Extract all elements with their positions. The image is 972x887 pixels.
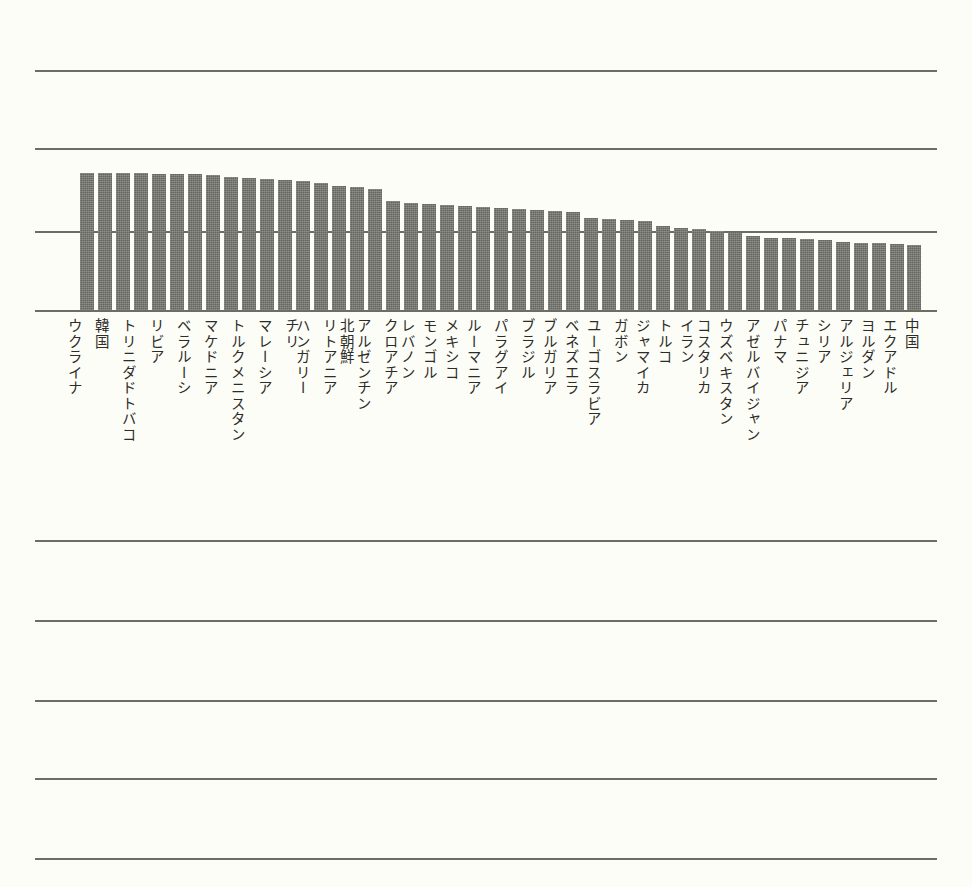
- x-axis-tick-label: ベネズエラ: [563, 318, 578, 396]
- x-axis-tick-label: リビア: [148, 318, 163, 365]
- bar[interactable]: [620, 220, 634, 310]
- x-axis-tick-label: ルーマニア: [465, 318, 480, 396]
- bar[interactable]: [188, 174, 202, 310]
- bar[interactable]: [656, 226, 670, 310]
- bar[interactable]: [80, 173, 94, 310]
- x-axis-tick-label: 中国: [903, 318, 918, 349]
- bar[interactable]: [458, 206, 472, 310]
- bar[interactable]: [404, 203, 418, 310]
- bar[interactable]: [530, 210, 544, 310]
- x-axis-tick-label: アルゼンチン: [355, 318, 370, 411]
- x-axis-tick-label: ウズベキスタン: [717, 318, 732, 427]
- bar[interactable]: [566, 212, 580, 310]
- x-axis-tick-label: ブルガリア: [541, 318, 556, 396]
- x-axis-tick-label: ハンガリー: [294, 318, 309, 396]
- x-axis-tick-label: エクアドル: [881, 318, 896, 396]
- bar[interactable]: [206, 175, 220, 310]
- bar[interactable]: [440, 205, 454, 310]
- x-axis-tick-label: マケドニア: [202, 318, 217, 396]
- bar[interactable]: [386, 201, 400, 310]
- bar[interactable]: [872, 243, 886, 310]
- bar[interactable]: [728, 232, 742, 310]
- bar[interactable]: [638, 221, 652, 310]
- bar[interactable]: [818, 240, 832, 310]
- x-axis-tick-label: トリニダドトバコ: [120, 318, 135, 442]
- gridline: [35, 620, 937, 622]
- bar[interactable]: [512, 209, 526, 310]
- x-axis-tick-label: マレーシア: [256, 318, 271, 396]
- bar[interactable]: [836, 242, 850, 310]
- x-axis-tick-label: 北朝鮮: [338, 318, 353, 365]
- x-axis-tick-label: メキシコ: [443, 318, 458, 380]
- x-axis-tick-label: シリア: [815, 318, 830, 365]
- gridline: [35, 858, 937, 860]
- x-axis-tick-label: パラグアイ: [492, 318, 507, 396]
- x-axis-tick-label: トルクメニスタン: [229, 318, 244, 442]
- bar[interactable]: [170, 174, 184, 310]
- x-axis-tick-label: ユーゴスラビア: [585, 318, 600, 427]
- bar[interactable]: [152, 174, 166, 310]
- bar[interactable]: [296, 181, 310, 310]
- bar[interactable]: [134, 173, 148, 310]
- bar[interactable]: [907, 245, 921, 310]
- x-axis-tick-label: ベラルーシ: [175, 318, 190, 396]
- x-axis-tick-label-group: ウクライナ韓国トリニダドトバコリビアベラルーシマケドニアトルクメニスタンマレーシ…: [0, 310, 972, 540]
- bar[interactable]: [224, 177, 238, 310]
- bar[interactable]: [890, 244, 904, 310]
- bar[interactable]: [260, 179, 274, 310]
- x-axis-tick-label: ヨルダン: [859, 318, 874, 380]
- x-axis-tick-label: クロアチア: [382, 318, 397, 396]
- bar[interactable]: [800, 239, 814, 310]
- gridline: [35, 540, 937, 542]
- x-axis-tick-label: モンゴル: [421, 318, 436, 380]
- bar[interactable]: [314, 183, 328, 310]
- bar[interactable]: [476, 207, 490, 310]
- bar[interactable]: [764, 238, 778, 310]
- x-axis-tick-label: トルコ: [656, 318, 671, 365]
- plot-area: [0, 0, 972, 310]
- x-axis-tick-label: 韓国: [93, 318, 108, 349]
- gridline: [35, 700, 937, 702]
- x-axis-tick-label: リトアニア: [321, 318, 336, 396]
- bar[interactable]: [854, 243, 868, 310]
- bar[interactable]: [548, 211, 562, 310]
- x-axis-tick-label: ガボン: [612, 318, 627, 365]
- x-axis-tick-label: ジャマイカ: [634, 318, 649, 396]
- bar[interactable]: [422, 204, 436, 310]
- bar[interactable]: [242, 178, 256, 310]
- x-axis-tick-label: アゼルバイジャン: [744, 318, 759, 442]
- x-axis-tick-label: コスタリカ: [695, 318, 710, 396]
- gridline: [35, 778, 937, 780]
- bar[interactable]: [368, 189, 382, 310]
- bar[interactable]: [746, 236, 760, 310]
- x-axis-tick-label: ブラジル: [519, 318, 534, 380]
- bar-chart-figure: ウクライナ韓国トリニダドトバコリビアベラルーシマケドニアトルクメニスタンマレーシ…: [0, 0, 972, 887]
- bar[interactable]: [350, 187, 364, 310]
- bar[interactable]: [710, 231, 724, 310]
- x-axis-tick-label: イラン: [678, 318, 693, 365]
- bar[interactable]: [116, 173, 130, 310]
- x-axis-tick-label: レバノン: [399, 318, 414, 380]
- x-axis-tick-label: アルジェリア: [837, 318, 852, 411]
- bar[interactable]: [332, 186, 346, 310]
- bar[interactable]: [98, 173, 112, 310]
- bar[interactable]: [584, 218, 598, 310]
- bar[interactable]: [782, 238, 796, 310]
- x-axis-tick-label: パナマ: [771, 318, 786, 365]
- bar[interactable]: [278, 180, 292, 310]
- x-axis-tick-label: ウクライナ: [66, 318, 81, 396]
- x-axis-tick-label: チュニジア: [793, 318, 808, 396]
- bar[interactable]: [674, 228, 688, 310]
- bar[interactable]: [692, 229, 706, 310]
- bar[interactable]: [602, 219, 616, 310]
- bar[interactable]: [494, 208, 508, 310]
